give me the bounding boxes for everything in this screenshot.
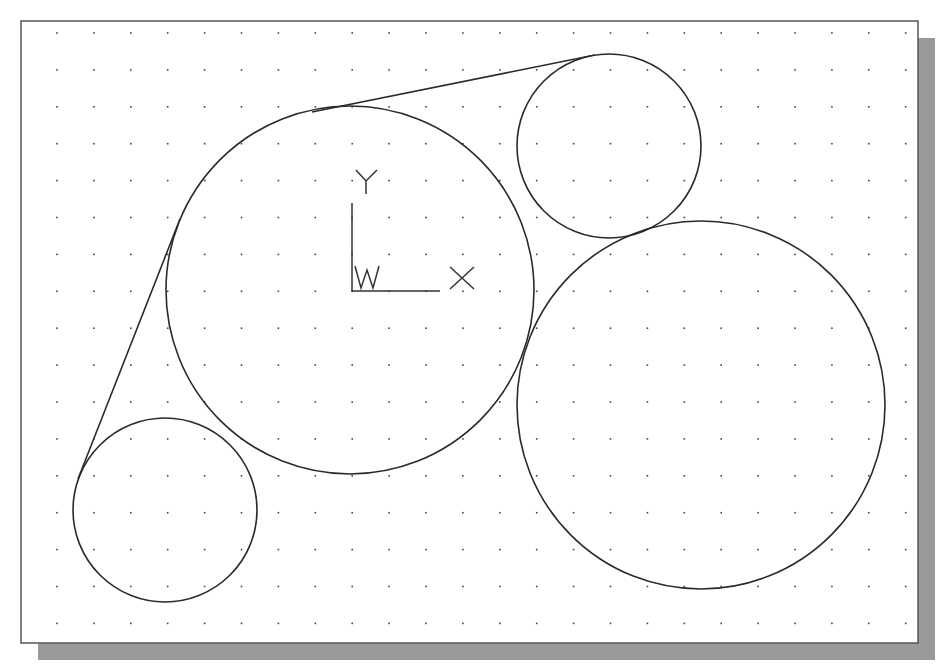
grid-dot	[905, 512, 907, 514]
grid-dot	[462, 512, 464, 514]
grid-dot	[610, 217, 612, 219]
grid-dot	[684, 475, 686, 477]
grid-dot	[204, 512, 206, 514]
grid-dot	[204, 364, 206, 366]
grid-dot	[499, 143, 501, 145]
grid-dot	[868, 106, 870, 108]
grid-dot	[278, 475, 280, 477]
grid-dot	[167, 549, 169, 551]
grid-dot	[130, 254, 132, 256]
grid-dot	[93, 364, 95, 366]
grid-dot	[130, 475, 132, 477]
grid-dot	[315, 623, 317, 625]
grid-dot	[56, 364, 58, 366]
grid-dot	[351, 327, 353, 329]
grid-dot	[536, 586, 538, 588]
grid-dot	[647, 254, 649, 256]
grid-dot	[425, 69, 427, 71]
grid-dot	[167, 401, 169, 403]
grid-dot	[278, 586, 280, 588]
grid-dot	[905, 549, 907, 551]
grid-dot	[499, 586, 501, 588]
grid-dot	[167, 475, 169, 477]
grid-dot	[130, 586, 132, 588]
grid-dot	[462, 254, 464, 256]
grid-dot	[56, 586, 58, 588]
grid-dot	[757, 180, 759, 182]
grid-dot	[425, 327, 427, 329]
grid-dot	[831, 143, 833, 145]
grid-dot	[720, 549, 722, 551]
grid-dot	[684, 364, 686, 366]
grid-dot	[610, 291, 612, 293]
grid-dot	[130, 106, 132, 108]
grid-dot	[93, 623, 95, 625]
grid-dot	[315, 69, 317, 71]
grid-dot	[425, 106, 427, 108]
grid-dot	[462, 32, 464, 34]
grid-dot	[425, 32, 427, 34]
grid-dot	[315, 254, 317, 256]
grid-dot	[278, 364, 280, 366]
grid-dot	[831, 549, 833, 551]
grid-dot	[573, 291, 575, 293]
grid-dot	[831, 106, 833, 108]
grid-dot	[610, 327, 612, 329]
grid-dot	[56, 327, 58, 329]
grid-dot	[573, 401, 575, 403]
grid-dot	[757, 438, 759, 440]
grid-dot	[720, 623, 722, 625]
grid-dot	[278, 143, 280, 145]
grid-dot	[794, 254, 796, 256]
grid-dot	[831, 254, 833, 256]
grid-dot	[831, 475, 833, 477]
grid-dot	[167, 364, 169, 366]
grid-dot	[241, 143, 243, 145]
grid-dot	[462, 586, 464, 588]
grid-dot	[56, 217, 58, 219]
grid-dot	[684, 32, 686, 34]
grid-dot	[610, 623, 612, 625]
grid-dot	[425, 512, 427, 514]
grid-dot	[167, 512, 169, 514]
grid-dot	[56, 143, 58, 145]
grid-dot	[241, 254, 243, 256]
grid-dot	[647, 327, 649, 329]
grid-dot	[720, 254, 722, 256]
grid-dot	[684, 401, 686, 403]
grid-dot	[351, 438, 353, 440]
grid-dot	[868, 438, 870, 440]
grid-dot	[351, 143, 353, 145]
grid-dot	[684, 291, 686, 293]
grid-dot	[573, 586, 575, 588]
grid-dot	[93, 32, 95, 34]
grid-dot	[278, 401, 280, 403]
grid-dot	[647, 32, 649, 34]
grid-dot	[56, 291, 58, 293]
grid-dot	[425, 401, 427, 403]
grid-dot	[905, 32, 907, 34]
grid-dot	[462, 623, 464, 625]
drawing-canvas[interactable]: Y X W	[0, 0, 950, 670]
grid-dot	[241, 327, 243, 329]
grid-dot	[573, 512, 575, 514]
grid-dot	[794, 291, 796, 293]
grid-dot	[499, 549, 501, 551]
grid-dot	[315, 512, 317, 514]
grid-dot	[499, 623, 501, 625]
grid-dot	[425, 549, 427, 551]
grid-dot	[167, 327, 169, 329]
grid-dot	[905, 143, 907, 145]
grid-dot	[905, 438, 907, 440]
grid-dot	[647, 217, 649, 219]
grid-dot	[647, 291, 649, 293]
grid-dot	[241, 475, 243, 477]
grid-dot	[831, 623, 833, 625]
grid-dot	[241, 32, 243, 34]
grid-dot	[462, 475, 464, 477]
grid-dot	[831, 512, 833, 514]
grid-dot	[167, 69, 169, 71]
grid-dot	[130, 217, 132, 219]
grid-dot	[388, 32, 390, 34]
grid-dot	[315, 291, 317, 293]
